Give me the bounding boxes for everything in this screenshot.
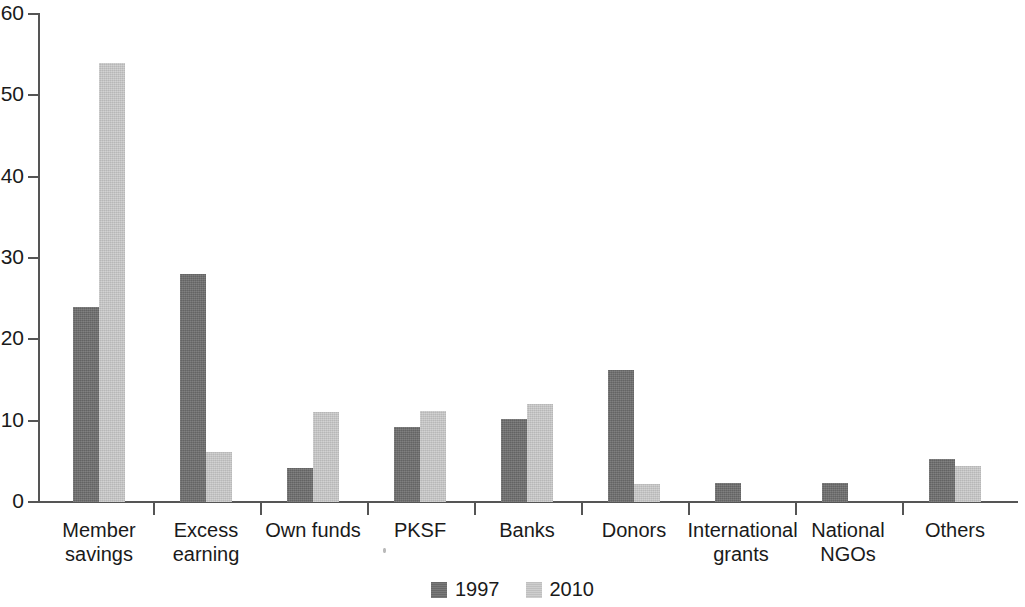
y-axis-tick-label: 50 bbox=[0, 83, 24, 104]
category-label-5: Donors bbox=[581, 518, 688, 542]
bar-2010-2 bbox=[313, 412, 339, 502]
y-axis-tick bbox=[28, 420, 38, 422]
y-axis-tick-label: 30 bbox=[0, 246, 24, 267]
bar-chart: 0102030405060 Member savingsExcess earni… bbox=[0, 0, 1025, 607]
category-separator-tick bbox=[474, 503, 476, 515]
bar-1997-2 bbox=[287, 468, 313, 502]
bar-2010-1 bbox=[206, 452, 232, 502]
bar-1997-0 bbox=[73, 307, 99, 502]
bar-2010-4 bbox=[527, 404, 553, 502]
category-separator-tick bbox=[795, 503, 797, 515]
scan-speck-artifact bbox=[383, 548, 386, 553]
bar-2010-0 bbox=[99, 63, 125, 502]
legend-label-2010: 2010 bbox=[550, 578, 595, 601]
bar-1997-3 bbox=[394, 427, 420, 502]
bar-1997-8 bbox=[929, 459, 955, 502]
y-axis-tick bbox=[28, 338, 38, 340]
y-axis-tick bbox=[28, 257, 38, 259]
y-axis-tick-label: 20 bbox=[0, 327, 24, 348]
category-separator-tick bbox=[902, 503, 904, 515]
bar-2010-8 bbox=[955, 466, 981, 502]
y-axis-tick bbox=[28, 176, 38, 178]
plot-area bbox=[38, 14, 1018, 502]
category-label-1: Excess earning bbox=[153, 518, 260, 566]
category-separator-tick bbox=[581, 503, 583, 515]
bar-1997-6 bbox=[715, 483, 741, 502]
category-label-6: International grants bbox=[688, 518, 795, 566]
bar-1997-5 bbox=[608, 370, 634, 502]
category-separator-tick bbox=[688, 503, 690, 515]
chart-legend: 1997 2010 bbox=[0, 578, 1025, 601]
y-axis-tick-label: 40 bbox=[0, 165, 24, 186]
category-label-0: Member savings bbox=[46, 518, 153, 566]
y-axis-tick-label: 60 bbox=[0, 2, 24, 23]
category-label-3: PKSF bbox=[367, 518, 474, 542]
category-label-8: Others bbox=[902, 518, 1009, 542]
y-axis-tick bbox=[28, 13, 38, 15]
legend-label-1997: 1997 bbox=[455, 578, 500, 601]
y-axis-tick bbox=[28, 501, 38, 503]
category-separator-tick bbox=[153, 503, 155, 515]
category-separator-tick bbox=[367, 503, 369, 515]
y-axis-tick bbox=[28, 94, 38, 96]
bar-1997-4 bbox=[501, 419, 527, 502]
bar-1997-1 bbox=[180, 274, 206, 502]
y-axis-tick-label: 0 bbox=[0, 490, 24, 511]
bar-1997-7 bbox=[822, 483, 848, 502]
legend-swatch-2010 bbox=[526, 582, 542, 598]
legend-swatch-1997 bbox=[431, 582, 447, 598]
bar-2010-5 bbox=[634, 484, 660, 502]
bar-2010-3 bbox=[420, 411, 446, 502]
legend-item-2010: 2010 bbox=[526, 578, 595, 601]
category-label-2: Own funds bbox=[260, 518, 367, 542]
legend-item-1997: 1997 bbox=[431, 578, 500, 601]
category-label-4: Banks bbox=[474, 518, 581, 542]
category-label-7: National NGOs bbox=[795, 518, 902, 566]
category-separator-tick bbox=[260, 503, 262, 515]
y-axis-tick-label: 10 bbox=[0, 409, 24, 430]
